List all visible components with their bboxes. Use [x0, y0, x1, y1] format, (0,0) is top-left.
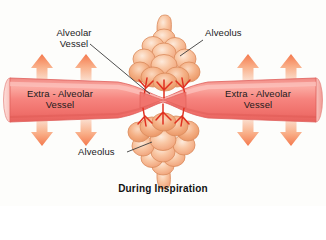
- label-alveolus-top: Alveolus: [205, 27, 275, 38]
- label-extra-alveolar-vessel-left: Extra - Alveolar Vessel: [14, 88, 106, 110]
- label-alveolus-bottom: Alveolus: [78, 146, 138, 157]
- figure-caption: During Inspiration: [0, 183, 326, 194]
- label-alveolar-vessel: Alveolar Vessel: [42, 27, 106, 49]
- label-extra-alveolar-vessel-right: Extra - Alveolar Vessel: [212, 88, 304, 110]
- alveolus-lobe: [152, 113, 176, 131]
